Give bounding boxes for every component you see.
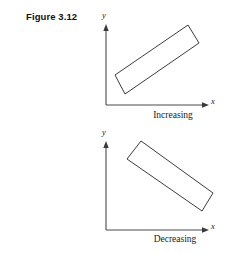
x-axis-label-increasing: x bbox=[211, 96, 215, 106]
y-axis-label-decreasing: y bbox=[102, 127, 106, 137]
panel-decreasing bbox=[103, 141, 213, 233]
data-cloud-decreasing bbox=[127, 141, 213, 211]
x-axis-arrowhead-increasing bbox=[202, 102, 209, 107]
figure-number-label: Figure 3.12 bbox=[26, 11, 77, 22]
x-axis-arrowhead-decreasing bbox=[202, 227, 209, 232]
x-axis-label-decreasing: x bbox=[211, 221, 215, 231]
panel-increasing bbox=[103, 24, 209, 108]
data-cloud-increasing bbox=[115, 25, 199, 94]
caption-decreasing: Decreasing bbox=[139, 234, 211, 244]
y-axis-arrowhead-increasing bbox=[103, 24, 108, 31]
y-axis-arrowhead-decreasing bbox=[103, 141, 108, 148]
caption-increasing: Increasing bbox=[140, 110, 206, 120]
y-axis-label-increasing: y bbox=[102, 10, 106, 20]
figure-illustration bbox=[0, 0, 243, 254]
